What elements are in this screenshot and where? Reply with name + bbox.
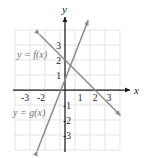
graph-figure: y x -3 -2 1 2 3 3 2 1 -1 -2 -3 y = f(x) … — [0, 0, 149, 158]
label-f-of-x: y = f(x) — [16, 49, 48, 61]
label-g-of-x: y = g(x) — [12, 107, 46, 119]
x-tick-2: 2 — [93, 93, 98, 103]
y-tick-2: 2 — [56, 56, 61, 66]
coordinate-plane: y x -3 -2 1 2 3 3 2 1 -1 -2 -3 y = f(x) … — [0, 0, 149, 158]
y-tick--3: -3 — [63, 131, 71, 141]
y-tick--2: -2 — [63, 116, 71, 126]
y-tick-1: 1 — [56, 71, 61, 81]
y-tick--1: -1 — [63, 101, 71, 111]
y-axis-label: y — [61, 3, 67, 15]
x-axis-label: x — [133, 84, 139, 96]
x-tick--3: -3 — [21, 93, 29, 103]
x-tick-3: 3 — [107, 93, 112, 103]
x-tick--2: -2 — [37, 93, 45, 103]
y-tick-3: 3 — [56, 41, 61, 51]
x-tick-1: 1 — [78, 93, 83, 103]
